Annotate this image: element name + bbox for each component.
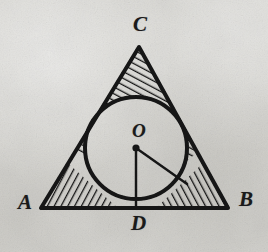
center-point-dot	[132, 144, 139, 151]
vertex-label-a: A	[18, 192, 32, 213]
vertex-label-b: B	[239, 189, 253, 210]
tangent-point-label-d: D	[131, 213, 146, 234]
center-label-o: O	[132, 121, 146, 140]
geometry-figure-canvas: A B C D O	[0, 0, 268, 252]
vertex-label-c: C	[133, 14, 147, 35]
